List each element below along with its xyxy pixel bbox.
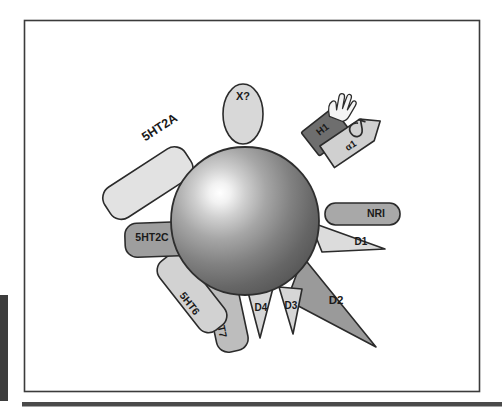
receptor-d3-label: D3 <box>285 300 298 311</box>
left-margin-bar <box>0 295 8 401</box>
receptor-nri-shape <box>325 203 400 225</box>
bottom-rule <box>22 402 502 407</box>
receptor-5ht2c-label: 5HT2C <box>135 231 169 243</box>
receptor-d4-label: D4 <box>255 302 268 313</box>
receptor-d2-label: D2 <box>329 294 344 306</box>
figure-canvas: 5HT2A X? H1 α1 NRI D1 <box>0 0 502 415</box>
receptor-x-unknown-label: X? <box>236 90 250 102</box>
drug-molecule-sphere[interactable] <box>171 147 319 295</box>
receptor-nri[interactable]: NRI <box>325 203 400 225</box>
receptor-x-unknown[interactable]: X? <box>223 84 263 144</box>
receptor-d1-label: D1 <box>355 236 368 247</box>
receptor-nri-label: NRI <box>367 207 385 219</box>
